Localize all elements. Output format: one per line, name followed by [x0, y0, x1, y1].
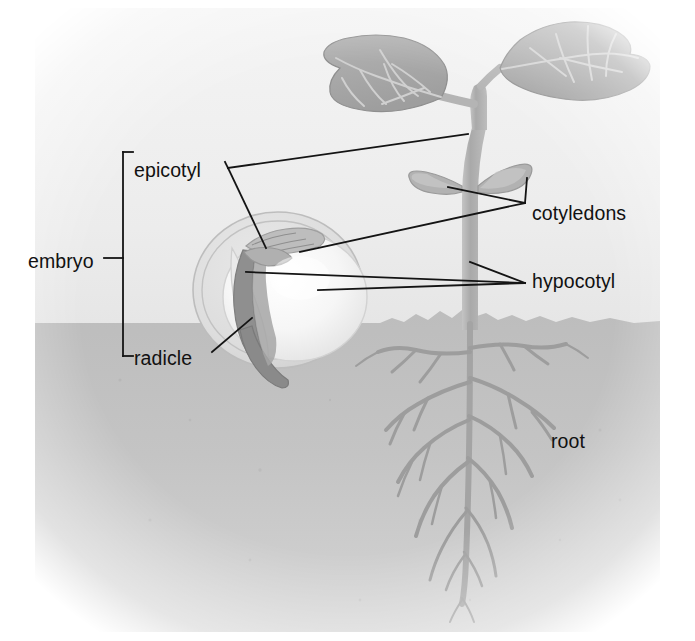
label-epicotyl: epicotyl	[134, 161, 201, 181]
seed-highlight	[270, 256, 330, 300]
botanical-scene	[0, 0, 695, 641]
soil-layer	[35, 310, 660, 632]
label-embryo: embryo	[28, 252, 94, 272]
scene-body	[35, 8, 660, 632]
label-cotyledons: cotyledons	[532, 204, 626, 224]
label-radicle: radicle	[134, 349, 192, 369]
diagram-canvas: embryo epicotyl radicle cotyledons hypoc…	[0, 0, 695, 641]
label-root: root	[551, 432, 585, 452]
label-hypocotyl: hypocotyl	[532, 272, 615, 292]
